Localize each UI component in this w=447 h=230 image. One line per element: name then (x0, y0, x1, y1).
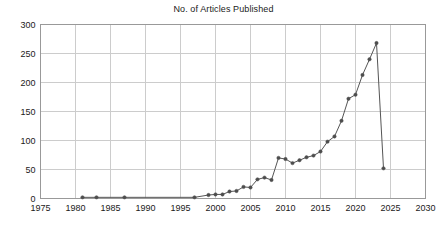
x-axis-tick-labels: 1975198019851990199520002005201020152020… (30, 203, 435, 213)
x-axis-tick-label: 1985 (100, 203, 120, 213)
data-point-marker (242, 185, 245, 188)
y-axis-tick-label: 100 (20, 136, 35, 146)
grid-lines (41, 25, 426, 199)
data-point-marker (263, 176, 266, 179)
data-point-marker (354, 93, 357, 96)
chart-container: No. of Articles Published 05010015020025… (0, 0, 447, 230)
x-axis-tick-label: 2025 (380, 203, 400, 213)
data-point-marker (228, 190, 231, 193)
data-point-marker (347, 97, 350, 100)
data-point-marker (221, 193, 224, 196)
data-point-marker (382, 167, 385, 170)
data-point-marker (95, 196, 98, 199)
data-point-marker (340, 119, 343, 122)
data-point-marker (277, 156, 280, 159)
data-point-marker (375, 41, 378, 44)
data-point-marker (319, 150, 322, 153)
x-axis-tick-label: 2010 (275, 203, 295, 213)
data-line (83, 43, 384, 197)
data-point-marker (214, 193, 217, 196)
data-point-marker (193, 196, 196, 199)
data-point-marker (249, 186, 252, 189)
data-point-marker (256, 178, 259, 181)
data-point-marker (368, 58, 371, 61)
x-axis-tick-label: 2005 (240, 203, 260, 213)
data-point-marker (326, 140, 329, 143)
x-axis-tick-label: 2020 (345, 203, 365, 213)
y-axis-tick-label: 200 (20, 78, 35, 88)
x-axis-tick-label: 1980 (65, 203, 85, 213)
data-point-marker (81, 196, 84, 199)
data-point-marker (284, 157, 287, 160)
data-point-marker (123, 196, 126, 199)
y-axis-tick-label: 150 (20, 107, 35, 117)
data-point-marker (333, 135, 336, 138)
x-axis-tick-label: 1995 (170, 203, 190, 213)
x-axis-tick-label: 2030 (415, 203, 435, 213)
series-line (83, 43, 384, 197)
line-chart-plot: 050100150200250300 197519801985199019952… (0, 0, 447, 230)
data-point-marker (298, 159, 301, 162)
data-point-marker (305, 156, 308, 159)
data-point-marker (207, 193, 210, 196)
data-point-marker (361, 73, 364, 76)
x-axis-tick-label: 1975 (30, 203, 50, 213)
data-point-marker (291, 161, 294, 164)
data-point-marker (312, 154, 315, 157)
y-axis-tick-label: 50 (25, 165, 35, 175)
data-markers (81, 41, 385, 199)
y-axis-tick-labels: 050100150200250300 (20, 20, 35, 204)
data-point-marker (235, 189, 238, 192)
x-axis-tick-label: 2015 (310, 203, 330, 213)
y-axis-tick-label: 300 (20, 20, 35, 30)
x-axis-tick-label: 2000 (205, 203, 225, 213)
y-axis-tick-label: 250 (20, 49, 35, 59)
data-point-marker (270, 178, 273, 181)
x-axis-tick-label: 1990 (135, 203, 155, 213)
